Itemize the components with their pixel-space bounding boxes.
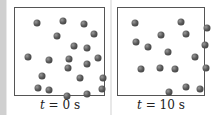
gas-particle [157, 65, 164, 72]
gas-particle [46, 87, 53, 94]
gas-particle [84, 45, 91, 52]
gas-particle [25, 54, 32, 61]
gas-particle [71, 43, 78, 50]
gas-particle [166, 89, 173, 96]
gas-particle [197, 86, 204, 93]
time-label-t0: t = 0 s [10, 98, 110, 112]
gas-particle [192, 54, 199, 61]
gas-particle [34, 20, 41, 27]
gas-particle [183, 84, 190, 91]
gas-particle [203, 65, 210, 72]
gas-particle [138, 66, 145, 73]
gas-particle [84, 61, 91, 68]
gas-particle [95, 55, 102, 62]
time-label-t10: t = 10 s [111, 98, 211, 112]
gas-particle [132, 20, 139, 27]
gas-particle [158, 32, 165, 39]
gas-particle [65, 65, 72, 72]
gas-particle [204, 25, 211, 32]
gas-particle [100, 75, 107, 82]
gas-particle [99, 86, 106, 93]
gas-particle [35, 85, 42, 92]
gas-particle [91, 31, 98, 38]
time-value: = 0 s [45, 98, 80, 112]
gas-particle [133, 39, 140, 46]
time-value: = 10 s [142, 98, 185, 112]
gas-particle [54, 33, 61, 40]
gas-particle [46, 57, 53, 64]
gas-particle [172, 66, 179, 73]
gas-particle [84, 91, 91, 98]
gas-particle [145, 44, 152, 51]
gas-particle [183, 31, 190, 38]
left-edge [0, 0, 6, 115]
gas-particle [66, 56, 73, 63]
container-box-t10 [117, 7, 205, 96]
gas-particle [77, 75, 84, 82]
container-box-t0 [14, 7, 105, 96]
gas-particle [81, 21, 88, 28]
gas-particle [178, 19, 185, 26]
gas-particle [165, 49, 172, 56]
gas-particle [60, 18, 67, 25]
gas-particle [39, 73, 46, 80]
gas-particle [202, 42, 209, 49]
